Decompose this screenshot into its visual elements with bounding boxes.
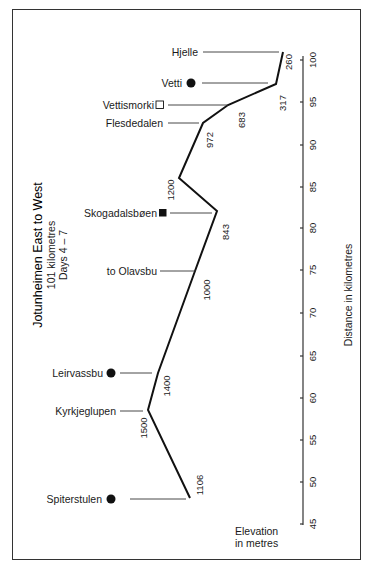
tick-label: 95 <box>307 97 318 108</box>
filled-circle-icon <box>187 79 196 88</box>
tick-label: 100 <box>307 52 318 68</box>
elevation-value: 317 <box>277 95 288 111</box>
tick-label: 50 <box>307 477 318 488</box>
open-square-icon <box>156 101 164 109</box>
title-line2: 101 kilometres <box>45 221 57 289</box>
tick-label: 90 <box>307 140 318 151</box>
elevation-value: 260 <box>283 54 294 70</box>
title-line3: Days 4 – 7 <box>57 230 69 280</box>
distance-axis-label: Distance in kilometres <box>342 244 354 347</box>
elevation-value: 1106 <box>194 475 205 495</box>
elevation-profile: 100 95 90 85 80 75 70 65 60 55 50 45 Dis… <box>0 0 374 577</box>
elevation-value: 972 <box>204 132 215 148</box>
elevation-value: 683 <box>236 112 247 128</box>
filled-circle-icon <box>107 495 116 504</box>
place-leirvassbu: Leirvassbu <box>52 367 103 379</box>
place-vettismorki: Vettismorki <box>103 99 154 111</box>
filled-square-icon <box>159 209 167 217</box>
distance-tick-labels: 100 95 90 85 80 75 70 65 60 55 50 45 <box>307 52 318 529</box>
elevation-label-line2: in metres <box>235 537 278 549</box>
tick-label: 55 <box>307 435 318 446</box>
place-kyrkjeglupen: Kyrkjeglupen <box>55 405 116 417</box>
elevation-profile-line <box>148 52 283 498</box>
place-skogadalsboen: Skogadalsbøen <box>84 207 157 219</box>
elevation-value: 1200 <box>165 179 176 200</box>
tick-label: 85 <box>307 182 318 193</box>
place-vetti: Vetti <box>162 77 182 89</box>
place-spiterstulen: Spiterstulen <box>47 493 103 505</box>
tick-label: 45 <box>307 519 318 530</box>
elevation-label-line1: Elevation <box>235 525 278 537</box>
filled-circle-icon <box>107 369 116 378</box>
tick-label: 65 <box>307 351 318 362</box>
tick-label: 80 <box>307 223 318 234</box>
place-hjelle: Hjelle <box>172 46 198 58</box>
elevation-value: 1400 <box>161 375 172 396</box>
distance-axis <box>300 56 303 525</box>
elevation-value: 1000 <box>201 279 212 300</box>
place-olavsbu: to Olavsbu <box>107 265 157 277</box>
place-flesdedalen: Flesdedalen <box>106 117 163 129</box>
tick-label: 70 <box>307 308 318 319</box>
elevation-value: 843 <box>220 224 231 240</box>
title-line1: Jotunheimen East to West <box>31 182 45 328</box>
elevation-value: 1500 <box>138 417 149 438</box>
tick-label: 60 <box>307 393 318 404</box>
tick-label: 75 <box>307 265 318 276</box>
